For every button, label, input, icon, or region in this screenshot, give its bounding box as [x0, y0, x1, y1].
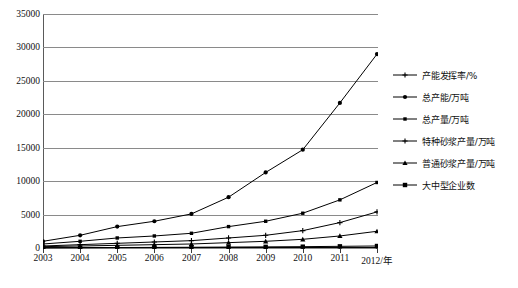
- x-axis-tick-label: 2005: [108, 253, 127, 263]
- series-line: [43, 54, 377, 241]
- y-axis-tick-label: 15000: [16, 143, 40, 153]
- legend-item-6[interactable]: 大中型企业数: [392, 174, 518, 196]
- data-point: [375, 181, 378, 184]
- data-point: [115, 225, 119, 229]
- x-axis-tick-label: 2008: [219, 253, 238, 263]
- legend-item-4[interactable]: 特种砂浆产量/万吨: [392, 130, 518, 152]
- legend-marker-icon: [392, 91, 418, 103]
- x-axis-tick-label: 2006: [145, 253, 164, 263]
- x-axis-tick-label: 2010: [293, 253, 312, 263]
- data-point: [338, 244, 342, 248]
- legend-label: 普通砂浆产量/万吨: [422, 157, 495, 170]
- series-lines: [43, 14, 378, 249]
- y-axis-tick-label: 20000: [16, 109, 40, 119]
- data-point: [338, 101, 342, 105]
- legend-marker-icon: [392, 113, 418, 125]
- y-axis-tick-label: 25000: [16, 76, 40, 86]
- data-point: [374, 209, 378, 214]
- x-axis-tick-label: 2012/年: [361, 253, 393, 267]
- y-axis-tick-label: 35000: [16, 9, 40, 19]
- y-axis-tick-label: 5000: [21, 210, 40, 220]
- data-point: [338, 198, 341, 201]
- legend-marker-icon: [392, 157, 418, 169]
- data-point: [301, 212, 304, 215]
- y-axis-labels: 05000100001500020000250003000035000: [0, 0, 40, 260]
- data-point: [116, 236, 119, 239]
- legend-item-2[interactable]: 总产能/万吨: [392, 86, 518, 108]
- legend-label: 总产量/万吨: [422, 113, 469, 126]
- chart-figure: 05000100001500020000250003000035000 2003…: [0, 0, 518, 288]
- data-point: [300, 228, 305, 233]
- data-point: [301, 148, 305, 152]
- data-point: [189, 245, 193, 249]
- y-axis-tick-label: 10000: [16, 176, 40, 186]
- data-point: [152, 219, 156, 223]
- data-point: [43, 246, 45, 249]
- legend-marker-icon: [392, 69, 418, 81]
- data-point: [226, 195, 230, 199]
- legend-label: 产能发挥率/%: [422, 69, 477, 82]
- data-point: [264, 170, 268, 174]
- data-point: [263, 233, 268, 238]
- data-point: [226, 245, 230, 249]
- series-line: [43, 182, 377, 244]
- legend-label: 大中型企业数: [422, 179, 475, 192]
- legend-marker-icon: [392, 179, 418, 191]
- legend-label: 特种砂浆产量/万吨: [422, 135, 495, 148]
- x-axis-tick-label: 2003: [34, 253, 53, 263]
- series-3: [43, 181, 378, 246]
- data-point: [153, 234, 156, 237]
- data-point: [227, 225, 230, 228]
- x-axis-tick-label: 2004: [71, 253, 90, 263]
- series-5: [43, 229, 378, 249]
- data-point: [375, 244, 378, 248]
- x-axis-tick-label: 2007: [182, 253, 201, 263]
- series-line: [43, 212, 377, 246]
- chart-legend: 产能发挥率/%总产能/万吨总产量/万吨特种砂浆产量/万吨普通砂浆产量/万吨大中型…: [392, 64, 518, 196]
- data-point: [152, 245, 156, 249]
- data-point: [337, 220, 342, 225]
- data-point: [301, 244, 305, 248]
- data-point: [189, 212, 193, 216]
- x-axis-tick-label: 2011: [331, 253, 350, 263]
- data-point: [190, 232, 193, 235]
- data-point: [374, 229, 378, 234]
- y-axis-tick-label: 30000: [16, 42, 40, 52]
- series-4: [43, 209, 378, 248]
- y-axis-tick-label: 0: [35, 243, 40, 253]
- data-point: [115, 245, 119, 249]
- data-point: [226, 235, 231, 240]
- legend-item-1[interactable]: 产能发挥率/%: [392, 64, 518, 86]
- data-point: [78, 245, 82, 249]
- data-point: [78, 233, 82, 237]
- series-2: [43, 52, 378, 243]
- x-axis-labels: 2003200420052006200720082009201020112012…: [0, 253, 420, 271]
- legend-item-5[interactable]: 普通砂浆产量/万吨: [392, 152, 518, 174]
- x-axis-tick-label: 2009: [256, 253, 275, 263]
- legend-label: 总产能/万吨: [422, 91, 469, 104]
- data-point: [263, 245, 267, 249]
- legend-marker-icon: [392, 135, 418, 147]
- legend-item-3[interactable]: 总产量/万吨: [392, 108, 518, 130]
- data-point: [264, 220, 267, 223]
- plot-area: [43, 14, 378, 249]
